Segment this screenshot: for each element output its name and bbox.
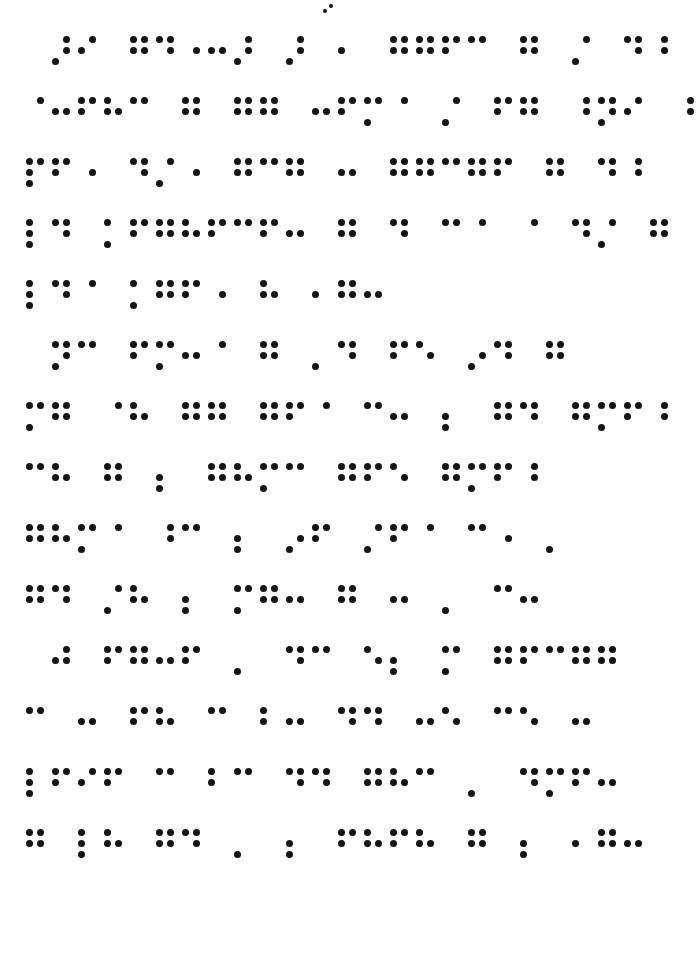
braille-dot-1 (104, 768, 111, 775)
braille-cell (103, 768, 129, 802)
braille-dot-1 (416, 768, 423, 775)
braille-dot-1 (52, 402, 59, 409)
braille-dot-1 (52, 158, 59, 165)
braille-dot-4 (271, 402, 278, 409)
braille-dot-5 (271, 352, 278, 359)
braille-cell (311, 158, 337, 192)
braille-cell (129, 707, 155, 741)
braille-cell (207, 463, 233, 497)
braille-dot-1 (390, 768, 397, 775)
braille-dot-2 (260, 718, 267, 725)
braille-cell (467, 646, 493, 680)
braille-dot-1 (442, 707, 449, 714)
braille-dot-2 (52, 779, 59, 786)
braille-cell (181, 646, 207, 680)
braille-dot-5 (63, 535, 70, 542)
braille-cell (285, 97, 311, 131)
braille-dot-2 (468, 169, 475, 176)
braille-dot-5 (297, 47, 304, 54)
braille-cell (129, 829, 155, 863)
braille-dot-5 (401, 413, 408, 420)
braille-dot-1 (650, 219, 657, 226)
braille-cell (597, 219, 623, 253)
braille-dot-2 (364, 840, 371, 847)
braille-line (0, 97, 698, 131)
braille-cell (181, 768, 207, 802)
braille-dot-1 (208, 768, 215, 775)
braille-cell (311, 97, 337, 131)
braille-cell (129, 158, 155, 192)
braille-cell (259, 646, 285, 680)
braille-dot-4 (193, 829, 200, 836)
braille-cell (415, 341, 441, 375)
braille-dot-5 (479, 840, 486, 847)
braille-dot-4 (531, 219, 538, 226)
braille-dot-5 (427, 718, 434, 725)
braille-dot-2 (260, 413, 267, 420)
braille-dot-4 (271, 219, 278, 226)
braille-dot-1 (494, 585, 501, 592)
braille-cell (441, 36, 467, 70)
braille-dot-5 (375, 718, 382, 725)
braille-cell (129, 341, 155, 375)
braille-dot-2 (442, 413, 449, 420)
braille-cell (675, 97, 698, 131)
braille-dot-2 (130, 230, 137, 237)
braille-dot-4 (219, 402, 226, 409)
braille-cell (389, 524, 415, 558)
braille-dot-5 (141, 169, 148, 176)
braille-dot-2 (156, 291, 163, 298)
braille-dot-4 (583, 646, 590, 653)
braille-dot-4 (245, 97, 252, 104)
braille-dot-1 (260, 341, 267, 348)
braille-dot-1 (26, 158, 33, 165)
braille-cell (77, 585, 103, 619)
braille-dot-1 (78, 341, 85, 348)
braille-dot-4 (141, 97, 148, 104)
braille-cell (467, 524, 493, 558)
braille-dot-2 (390, 169, 397, 176)
braille-cell (441, 219, 467, 253)
braille-cell (259, 768, 285, 802)
braille-cell (545, 97, 571, 131)
braille-dot-4 (115, 585, 122, 592)
braille-cell (233, 402, 259, 436)
braille-cell (259, 585, 285, 619)
braille-cell (363, 341, 389, 375)
braille-dot-2 (156, 230, 163, 237)
braille-dot-4 (687, 97, 694, 104)
braille-cell (25, 97, 51, 131)
braille-cell (259, 463, 285, 497)
braille-cell (233, 768, 259, 802)
braille-dot-2 (598, 779, 605, 786)
braille-cell (363, 97, 389, 131)
braille-dot-1 (390, 463, 397, 470)
braille-dot-1 (104, 646, 111, 653)
braille-dot-2 (26, 169, 33, 176)
braille-cell (363, 280, 389, 314)
braille-dot-2 (156, 474, 163, 481)
braille-dot-1 (494, 158, 501, 165)
braille-dot-4 (531, 463, 538, 470)
braille-dot-4 (245, 768, 252, 775)
braille-dot-4 (635, 97, 642, 104)
braille-dot-1 (494, 646, 501, 653)
braille-dot-4 (63, 585, 70, 592)
braille-cell (103, 219, 129, 253)
braille-cell (129, 97, 155, 131)
braille-dot-5 (531, 779, 538, 786)
braille-dot-3 (104, 607, 111, 614)
braille-cell (311, 768, 337, 802)
braille-dot-4 (349, 219, 356, 226)
braille-dot-2 (572, 840, 579, 847)
braille-dot-4 (505, 158, 512, 165)
braille-dot-2 (234, 535, 241, 542)
braille-cell (623, 36, 649, 70)
braille-dot-1 (598, 402, 605, 409)
braille-cell (519, 158, 545, 192)
braille-cell (259, 829, 285, 863)
braille-cell (51, 463, 77, 497)
braille-cell (519, 402, 545, 436)
braille-cell (389, 36, 415, 70)
braille-dot-4 (583, 768, 590, 775)
